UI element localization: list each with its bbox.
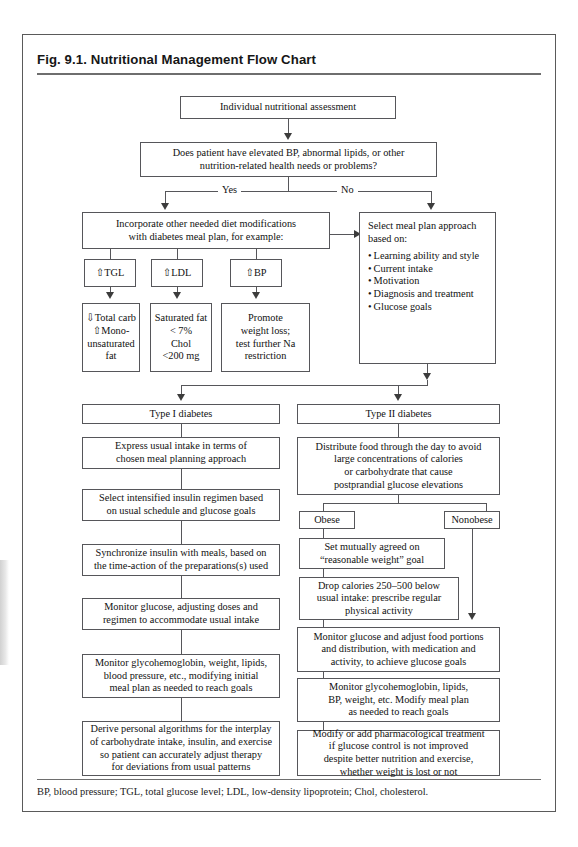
arrow-down-icon-ldl (173, 292, 181, 299)
node-t2-reasonable-weight-goal: Set mutually agreed on “reasonable weigh… (299, 538, 445, 569)
connector-t1-6 (181, 698, 182, 721)
connector-obese-down-2 (323, 569, 324, 577)
node-bp: ⇧BP (230, 259, 282, 287)
node-select-meal-plan: Select meal plan approach based on: Lear… (359, 212, 496, 364)
arrow-down-icon-type1 (177, 394, 185, 401)
node-individual-assessment: Individual nutritional assessment (180, 96, 396, 119)
node-incorporate-diet-modifications: Incorporate other needed diet modificati… (82, 212, 330, 249)
title-divider (37, 73, 541, 75)
node-t2-monitor-glycohemoglobin: Monitor glycohemoglobin, lipids, BP, wei… (297, 678, 500, 722)
footnote-divider (37, 779, 541, 780)
node-t2-drop-calories: Drop calories 250–500 below usual intake… (299, 577, 459, 620)
node-t1-derive-algorithms: Derive personal algorithms for the inter… (82, 721, 280, 776)
list-item: Glucose goals (368, 301, 479, 314)
connector-t1-4 (181, 576, 182, 598)
connector-t1-1 (181, 424, 182, 437)
node-decision-health-needs: Does patient have elevated BP, abnormal … (140, 142, 437, 177)
node-t1-select-insulin-regimen: Select intensified insulin regimen based… (82, 489, 280, 521)
connector-t1-5 (181, 630, 182, 654)
list-item: Motivation (368, 275, 479, 288)
arrow-down-icon-select (423, 373, 431, 380)
node-t2-monitor-glucose-adjust: Monitor glucose and adjust food portions… (297, 627, 500, 672)
connector-t2-split-stem (398, 495, 399, 503)
connector-branch-bar (165, 191, 431, 192)
node-t1-express-usual-intake: Express usual intake in terms of chosen … (82, 437, 280, 469)
connector-nonobese-down (472, 529, 473, 615)
select-plan-bullet-list: Learning ability and style Current intak… (368, 250, 479, 313)
node-type-1-diabetes: Type I diabetes (82, 404, 280, 424)
node-obese: Obese (299, 511, 355, 529)
figure-footnote: BP, blood pressure; TGL, total glucose l… (37, 786, 547, 797)
node-t2-distribute-food: Distribute food through the day to avoid… (297, 437, 500, 495)
connector-obese-split-bar (323, 503, 486, 504)
branch-label-no: No (337, 184, 358, 195)
node-ldl: ⇧LDL (151, 259, 203, 287)
arrow-down-icon-no (427, 203, 435, 210)
connector-obese-down-3 (323, 620, 324, 627)
list-item: Current intake (368, 263, 479, 276)
branch-label-yes: Yes (218, 184, 241, 195)
node-t1-monitor-glycohemoglobin: Monitor glycohemoglobin, weight, lipids,… (82, 654, 280, 698)
node-nonobese: Nonobese (444, 511, 500, 529)
node-type-2-diabetes: Type II diabetes (297, 404, 500, 424)
node-bp-action: Promote weight loss; test further Na res… (221, 303, 310, 372)
node-t2-pharmacological-treatment: Modify or add pharmacological treatment … (297, 730, 500, 776)
scan-artifact (0, 560, 9, 665)
connector-t2-1 (398, 424, 399, 437)
connector-incorporate-to-select (330, 234, 356, 235)
figure-page: Fig. 9.1. Nutritional Management Flow Ch… (0, 0, 578, 847)
arrow-down-icon-type2 (394, 394, 402, 401)
arrow-down-icon (284, 133, 292, 140)
connector-obese-down (323, 529, 324, 538)
list-item: Learning ability and style (368, 250, 479, 263)
list-item: Diagnosis and treatment (368, 288, 479, 301)
arrow-down-icon-yes (161, 203, 169, 210)
connector-decision-stem (288, 177, 289, 191)
arrow-down-icon-bp (252, 292, 260, 299)
node-ldl-action: Saturated fat < 7% Chol <200 mg (150, 303, 212, 372)
node-tgl: ⇧TGL (84, 259, 136, 287)
arrow-down-icon-nonobese (468, 613, 476, 620)
connector-type-split-bar (181, 385, 428, 386)
page-title: Fig. 9.1. Nutritional Management Flow Ch… (37, 52, 507, 67)
node-tgl-action: ⇩Total carb ⇧Mono- unsaturated fat (82, 303, 140, 372)
connector-to-obese (323, 503, 324, 511)
connector-t1-3 (181, 521, 182, 544)
node-t1-synchronize-insulin: Synchronize insulin with meals, based on… (82, 544, 280, 576)
connector-t1-2 (181, 469, 182, 489)
node-t1-monitor-glucose: Monitor glucose, adjusting doses and reg… (82, 598, 280, 630)
arrow-down-icon-tgl (106, 292, 114, 299)
connector-to-nonobese (486, 503, 487, 511)
